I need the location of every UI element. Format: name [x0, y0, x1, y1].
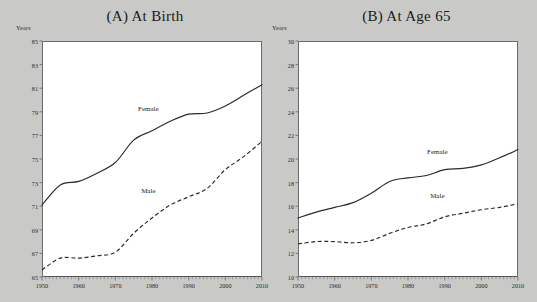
figure-root: (A) At Birth Years 656769717375777981838… — [0, 0, 537, 302]
y-tick-label: 73 — [20, 179, 38, 186]
chart-panel-a: (A) At Birth Years 656769717375777981838… — [0, 0, 268, 302]
y-tick-label: 20 — [276, 156, 294, 163]
x-tick-label: 1960 — [328, 282, 340, 289]
y-tick-label: 12 — [276, 250, 294, 257]
series-line-male — [298, 204, 518, 244]
x-tick-label: 1970 — [365, 282, 377, 289]
y-tick-label: 22 — [276, 132, 294, 139]
panel-b-series-layer — [268, 0, 537, 302]
x-tick-label: 1980 — [402, 282, 414, 289]
y-tick-label: 14 — [276, 226, 294, 233]
panel-a-series-layer — [0, 0, 269, 302]
series-label-female: Female — [138, 105, 159, 113]
chart-panel-b: (B) At Age 65 Years 10121416182022242628… — [268, 0, 537, 302]
y-tick-label: 83 — [20, 61, 38, 68]
y-tick-label: 69 — [20, 226, 38, 233]
x-tick-label: 1990 — [182, 282, 194, 289]
x-tick-label: 2000 — [475, 282, 487, 289]
x-tick-label: 1970 — [109, 282, 121, 289]
y-tick-label: 24 — [276, 108, 294, 115]
y-tick-label: 81 — [20, 85, 38, 92]
y-tick-label: 28 — [276, 61, 294, 68]
x-tick-label: 1950 — [36, 282, 48, 289]
x-tick-label: 1960 — [72, 282, 84, 289]
y-tick-label: 30 — [276, 38, 294, 45]
x-tick-label: 2010 — [256, 282, 268, 289]
x-tick-label: 1950 — [292, 282, 304, 289]
series-line-female — [298, 150, 518, 218]
series-label-female: Female — [427, 148, 448, 156]
y-tick-label: 18 — [276, 179, 294, 186]
y-tick-label: 26 — [276, 85, 294, 92]
x-tick-label: 2000 — [219, 282, 231, 289]
series-label-male: Male — [141, 187, 155, 195]
y-tick-label: 10 — [276, 274, 294, 281]
x-tick-label: 1990 — [438, 282, 450, 289]
y-tick-label: 85 — [20, 38, 38, 45]
y-tick-label: 67 — [20, 250, 38, 257]
x-tick-label: 2010 — [512, 282, 524, 289]
y-tick-label: 79 — [20, 108, 38, 115]
y-tick-label: 77 — [20, 132, 38, 139]
series-label-male: Male — [430, 192, 444, 200]
y-tick-label: 71 — [20, 203, 38, 210]
y-tick-label: 16 — [276, 203, 294, 210]
y-tick-label: 75 — [20, 156, 38, 163]
y-tick-label: 65 — [20, 274, 38, 281]
series-line-male — [42, 141, 262, 270]
x-tick-label: 1980 — [146, 282, 158, 289]
